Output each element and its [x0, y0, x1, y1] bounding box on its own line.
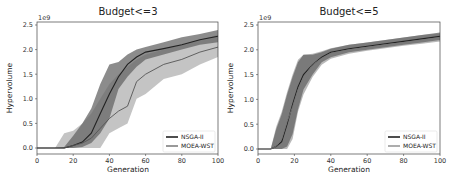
y-tick-label: 0.0 — [23, 144, 33, 152]
x-tick-label: 100 — [212, 157, 224, 165]
x-tick-label: 40 — [327, 157, 335, 165]
y-axis-label: Hypervolume — [5, 62, 14, 113]
y-tick-label: 2.5 — [23, 21, 33, 29]
x-tick-label: 20 — [290, 157, 298, 165]
chart-title: Budget<=3 — [98, 6, 157, 17]
y-tick-label: 2.0 — [23, 46, 33, 54]
x-tick-label: 40 — [105, 157, 113, 165]
legend-label-nsga2: NSGA-II — [181, 133, 204, 140]
y-tick-label: 0.0 — [244, 145, 254, 153]
x-axis-label: Generation — [328, 165, 370, 174]
chart-budget-3: Budget<=3 1e9 Hypervolume Generation 020… — [5, 6, 224, 174]
legend: NSGA-II MOEA-WST — [163, 131, 215, 152]
y-tick-label: 1.5 — [244, 71, 254, 79]
chart-budget-5: Budget<=5 1e9 Hypervolume Generation 020… — [226, 6, 446, 174]
y-tick-label: 1.5 — [23, 71, 33, 79]
x-tick-label: 100 — [434, 157, 446, 165]
y-tick-label: 2.5 — [244, 21, 254, 29]
y-scale-label: 1e9 — [38, 14, 50, 22]
y-axis-label: Hypervolume — [226, 62, 235, 113]
x-tick-label: 80 — [399, 157, 407, 165]
y-tick-label: 2.0 — [244, 46, 254, 54]
x-axis-label: Generation — [107, 165, 149, 174]
figure-canvas: Budget<=3 1e9 Hypervolume Generation 020… — [0, 0, 463, 179]
x-tick-label: 80 — [178, 157, 186, 165]
x-tick-label: 0 — [35, 157, 39, 165]
x-tick-label: 20 — [69, 157, 77, 165]
legend-label-moea-wst: MOEA-WST — [181, 142, 214, 149]
legend-label-nsga2: NSGA-II — [403, 133, 426, 140]
y-tick-label: 0.5 — [23, 120, 33, 128]
y-tick-label: 1.0 — [23, 95, 33, 103]
x-tick-label: 60 — [363, 157, 371, 165]
x-tick-label: 0 — [256, 157, 260, 165]
y-tick-label: 0.5 — [244, 121, 254, 129]
legend: NSGA-II MOEA-WST — [385, 131, 437, 152]
x-tick-label: 60 — [141, 157, 149, 165]
legend-label-moea-wst: MOEA-WST — [403, 142, 436, 149]
chart-title: Budget<=5 — [319, 6, 378, 17]
y-tick-label: 1.0 — [244, 96, 254, 104]
y-scale-label: 1e9 — [259, 14, 271, 22]
